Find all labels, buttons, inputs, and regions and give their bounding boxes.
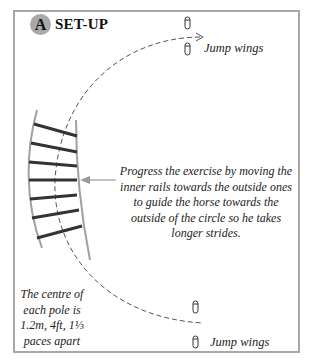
pole-3 <box>29 162 77 166</box>
jump-wing-icon <box>185 43 190 55</box>
jump-wing-icon <box>193 336 198 348</box>
pointer-arrow-icon <box>80 176 116 184</box>
pole-7 <box>37 226 82 238</box>
progress-note: Progress the exercise by moving the inne… <box>116 164 296 242</box>
section-badge: A <box>30 14 51 35</box>
jump-wing-icon <box>185 17 190 29</box>
jump-wings-label-bottom: Jump wings <box>210 335 269 350</box>
inner-rail <box>76 120 90 260</box>
pole-2 <box>31 143 77 152</box>
pole-spacing-note: The centre of each pole is 1.2m, 4ft, 1⅓… <box>16 287 88 349</box>
pole-6 <box>32 210 79 218</box>
ground-poles <box>29 124 82 238</box>
pole-1 <box>34 124 77 136</box>
section-title-text: SET-UP <box>55 16 108 33</box>
jump-wings-label-top: Jump wings <box>204 41 263 56</box>
jump-wing-icon <box>193 301 198 313</box>
section-title: A SET-UP <box>30 14 108 35</box>
pole-5 <box>30 195 77 199</box>
